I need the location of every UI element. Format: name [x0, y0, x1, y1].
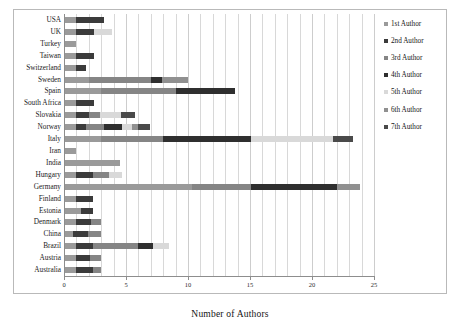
x-axis-tick-label: 25 [371, 281, 378, 288]
bar-segment [138, 243, 153, 249]
bar-segment [76, 124, 86, 130]
legend-swatch-icon [384, 39, 388, 43]
bar-row [64, 148, 374, 154]
bar-segment [176, 88, 236, 94]
bar-segment [64, 160, 120, 166]
category-label-australia: Australia [34, 266, 61, 273]
bar-segment [76, 112, 88, 118]
bar-segment [64, 41, 76, 47]
bar-segment [91, 219, 101, 225]
bar-row [64, 208, 374, 214]
bar-segment [251, 184, 337, 190]
bar-row [64, 41, 374, 47]
legend-swatch-icon [384, 108, 388, 112]
bar-row [64, 172, 374, 178]
bar-segment [64, 243, 76, 249]
bar-segment [64, 88, 101, 94]
legend-item: 5th Author [384, 84, 446, 101]
legend-item: 1st Author [384, 15, 446, 32]
bar-segment [64, 136, 101, 142]
bar-segment [76, 100, 93, 106]
bar-segment [138, 124, 149, 130]
bar-row [64, 231, 374, 237]
legend-label: 1st Author [391, 20, 421, 28]
x-axis-tick-label: 20 [309, 281, 316, 288]
bar-row [64, 88, 374, 94]
bar-segment [121, 112, 135, 118]
legend-swatch-icon [384, 73, 388, 77]
legend-swatch-icon [384, 125, 388, 129]
category-label-usa: USA [46, 16, 61, 23]
chart-legend: 1st Author2nd Author3rd Author4th Author… [384, 15, 446, 135]
bar-segment [64, 208, 81, 214]
bar-segment [76, 243, 92, 249]
x-axis-tick [188, 276, 189, 280]
legend-item: 7th Author [384, 118, 446, 135]
bar-segment [122, 124, 132, 130]
bar-row [64, 17, 374, 23]
bar-segment [76, 53, 93, 59]
category-label-denmark: Denmark [34, 218, 61, 225]
bar-segment [333, 136, 353, 142]
category-label-estonia: Estonia [39, 207, 61, 214]
legend-label: 7th Author [391, 123, 422, 131]
bar-row [64, 267, 374, 273]
bar-segment [76, 267, 92, 273]
bar-row [64, 255, 374, 261]
bar-row [64, 243, 374, 249]
legend-swatch-icon [384, 90, 388, 94]
bar-segment [89, 77, 151, 83]
bar-row [64, 124, 374, 130]
bar-row [64, 160, 374, 166]
bar-segment [64, 255, 76, 261]
category-label-china: China [44, 230, 61, 237]
legend-label: 2nd Author [391, 37, 424, 45]
bar-segment [64, 148, 76, 154]
bar-segment [64, 17, 76, 23]
x-axis-tick [64, 276, 65, 280]
x-axis-tick-label: 15 [247, 281, 254, 288]
bar-segment [101, 88, 175, 94]
bar-row [64, 53, 374, 59]
author-count-bar-chart: USAUKTurkeyTaiwanSwitzerlandSwedenSpainS… [0, 0, 460, 331]
category-label-south-africa: South Africa [24, 99, 61, 106]
x-axis-tick-label: 0 [62, 281, 65, 288]
category-label-uk: UK [50, 28, 61, 35]
bar-segment [64, 112, 76, 118]
bar-segment [73, 231, 88, 237]
category-label-taiwan: Taiwan [40, 52, 61, 59]
bar-segment [64, 196, 76, 202]
legend-swatch-icon [384, 22, 388, 26]
legend-label: 4th Author [391, 71, 422, 79]
category-label-switzerland: Switzerland [26, 64, 61, 71]
bar-segment [64, 77, 89, 83]
bar-segment [153, 243, 169, 249]
bar-segment [93, 172, 109, 178]
bar-segment [64, 184, 192, 190]
bar-row [64, 184, 374, 190]
category-label-italy: Italy [48, 135, 61, 142]
bar-segment [81, 208, 92, 214]
bar-segment [337, 184, 361, 190]
bar-row [64, 29, 374, 35]
category-label-india: India [46, 159, 61, 166]
bar-segment [64, 231, 73, 237]
bar-segment [64, 172, 76, 178]
bar-segment [162, 77, 188, 83]
bar-segment [76, 172, 92, 178]
bar-row [64, 65, 374, 71]
legend-item: 6th Author [384, 101, 446, 118]
category-label-finland: Finland [39, 195, 61, 202]
category-label-hungary: Hungary [35, 171, 61, 178]
bar-row [64, 100, 374, 106]
legend-label: 6th Author [391, 106, 422, 114]
legend-label: 3rd Author [391, 54, 422, 62]
category-label-sweden: Sweden [38, 76, 61, 83]
bar-segment [64, 100, 76, 106]
bar-row [64, 112, 374, 118]
bar-segment [100, 112, 121, 118]
bar-segment [64, 219, 76, 225]
bar-segment [94, 29, 113, 35]
x-axis-tick [312, 276, 313, 280]
bar-segment [104, 124, 123, 130]
